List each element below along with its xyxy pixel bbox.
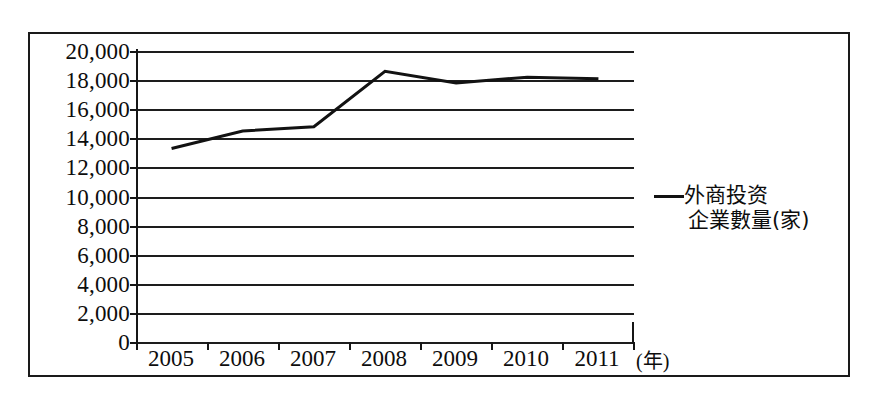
x-tick-mark-3 (349, 342, 351, 350)
x-tick-mark-5 (491, 342, 493, 350)
x-tick-mark-7 (633, 342, 635, 350)
x-axis-unit-label: (年) (636, 351, 669, 371)
y-tick-label-0: 0 (118, 331, 130, 354)
y-axis-tick-labels: 20,000 18,000 16,000 14,000 12,000 10,00… (34, 0, 130, 401)
series-polyline-foreign-invested-enterprises (172, 71, 599, 148)
x-tick-mark-4 (420, 342, 422, 350)
legend-label-line-2: 企業數量(家) (684, 208, 844, 233)
series-line-chart (136, 51, 634, 342)
y-tick-label-12000: 12,000 (66, 156, 130, 179)
x-tick-label-2009: 2009 (432, 347, 478, 370)
x-tick-mark-1 (207, 342, 209, 350)
x-tick-mark-0 (136, 342, 138, 350)
y-tick-label-14000: 14,000 (66, 127, 130, 150)
x-tick-label-2006: 2006 (219, 347, 265, 370)
y-tick-label-10000: 10,000 (66, 186, 130, 209)
x-tick-label-2011: 2011 (574, 347, 619, 370)
y-tick-label-6000: 6,000 (77, 244, 130, 267)
gridline-0-axis (136, 342, 634, 344)
legend-label: 外商投资 企業數量(家) (684, 183, 844, 233)
legend: 外商投资 企業數量(家) (654, 183, 844, 233)
x-tick-mark-2 (278, 342, 280, 350)
chart-figure: 20,000 18,000 16,000 14,000 12,000 10,00… (0, 0, 869, 401)
x-tick-label-2005: 2005 (148, 347, 194, 370)
x-tick-mark-6 (562, 342, 564, 350)
y-tick-label-4000: 4,000 (77, 273, 130, 296)
y-tick-label-2000: 2,000 (77, 302, 130, 325)
x-tick-label-2010: 2010 (503, 347, 549, 370)
x-tick-label-2007: 2007 (290, 347, 336, 370)
y-tick-label-18000: 18,000 (66, 69, 130, 92)
y-tick-label-8000: 8,000 (77, 215, 130, 238)
y-tick-label-16000: 16,000 (66, 98, 130, 121)
legend-line-marker-icon (654, 195, 684, 198)
legend-label-line-1: 外商投资 (684, 183, 844, 208)
x-tick-label-2008: 2008 (361, 347, 407, 370)
y-tick-label-20000: 20,000 (66, 40, 130, 63)
